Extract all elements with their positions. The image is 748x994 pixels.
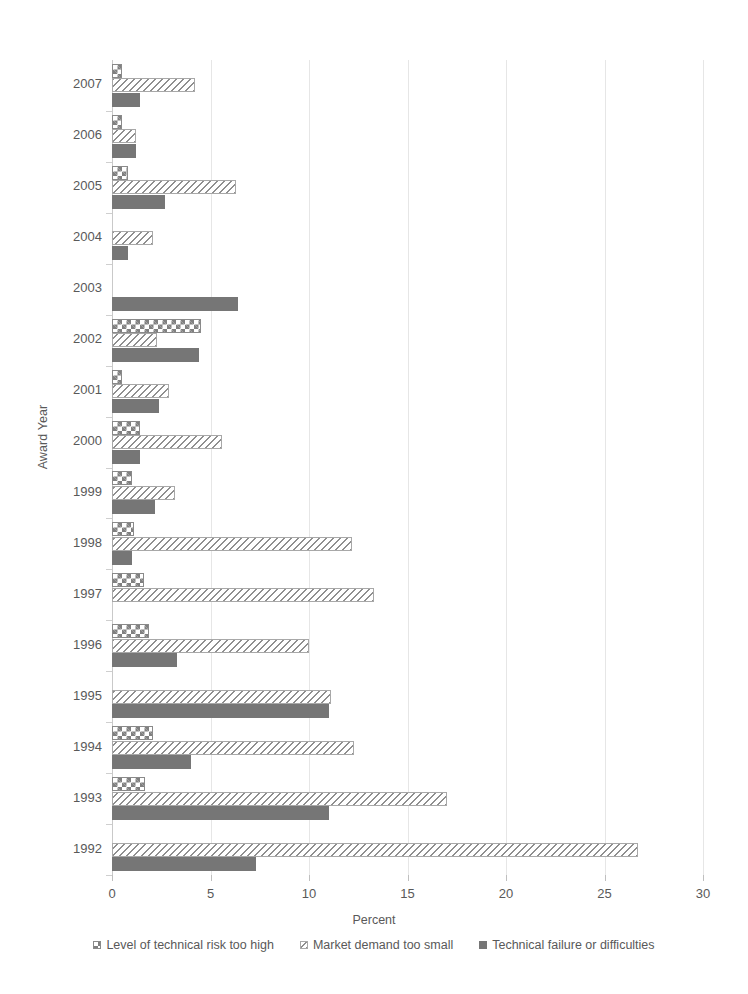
legend-swatch-icon	[479, 941, 487, 949]
x-tick-label: 0	[92, 886, 132, 901]
y-tick-label: 1992	[32, 841, 102, 856]
x-tickmark	[605, 875, 606, 881]
legend-label: Market demand too small	[313, 938, 453, 952]
chart-category-row: 1994	[112, 722, 703, 773]
chart-bar	[112, 93, 140, 107]
chart-bar	[112, 588, 374, 602]
chart-bar	[112, 370, 122, 384]
y-tick-label: 1995	[32, 688, 102, 703]
y-tick-label: 2004	[32, 229, 102, 244]
chart-bar	[112, 777, 145, 791]
chart-category-row: 1997	[112, 569, 703, 620]
chart-bar	[112, 180, 236, 194]
y-tick-label: 2005	[32, 178, 102, 193]
y-tick-label: 1998	[32, 535, 102, 550]
chart-bar	[112, 857, 256, 871]
legend-label: Level of technical risk too high	[106, 938, 273, 952]
y-tick-label: 2001	[32, 382, 102, 397]
chart-category-row: 2003	[112, 264, 703, 315]
chart-bar	[112, 653, 177, 667]
chart-bar	[112, 471, 132, 485]
chart-category-row: 2001	[112, 366, 703, 417]
plot-area: 2007200620052004200320022001200019991998…	[112, 60, 703, 875]
x-tickmark	[506, 875, 507, 881]
chart-bar	[112, 129, 136, 143]
chart-bar	[112, 450, 140, 464]
x-tickmark	[703, 875, 704, 881]
chart-category-row: 1998	[112, 518, 703, 569]
chart-bar	[112, 144, 136, 158]
chart-bar	[112, 624, 149, 638]
x-tickmark	[408, 875, 409, 881]
x-tick-label: 20	[486, 886, 526, 901]
chart-bar	[112, 195, 165, 209]
chart-bar	[112, 792, 447, 806]
legend-swatch-icon	[93, 941, 101, 949]
chart-bar	[112, 486, 175, 500]
y-tick-label: 2002	[32, 331, 102, 346]
chart-bar	[112, 421, 140, 435]
chart-legend: Level of technical risk too highMarket d…	[0, 938, 748, 952]
chart-bar	[112, 64, 122, 78]
chart-category-row: 2005	[112, 162, 703, 213]
y-tick-label: 1994	[32, 739, 102, 754]
x-axis-title: Percent	[0, 913, 748, 927]
x-tick-label: 30	[683, 886, 723, 901]
chart-bar	[112, 551, 132, 565]
chart-bar	[112, 78, 195, 92]
chart-bar	[112, 806, 329, 820]
chart-bar	[112, 690, 331, 704]
chart-category-row: 1995	[112, 671, 703, 722]
y-tick-label: 1999	[32, 484, 102, 499]
chart-category-row: 2004	[112, 213, 703, 264]
y-tick-label: 2000	[32, 433, 102, 448]
chart-bar	[112, 115, 122, 129]
chart-bar	[112, 639, 309, 653]
chart-bar	[112, 435, 222, 449]
legend-item[interactable]: Technical failure or difficulties	[479, 938, 654, 952]
legend-item[interactable]: Market demand too small	[300, 938, 453, 952]
chart-bar	[112, 246, 128, 260]
chart-bar	[112, 843, 638, 857]
x-tick-label: 5	[191, 886, 231, 901]
x-tickmark	[112, 875, 113, 881]
x-tickmark	[309, 875, 310, 881]
legend-swatch-icon	[300, 941, 308, 949]
chart-bar	[112, 755, 191, 769]
chart-category-row: 2002	[112, 315, 703, 366]
chart-bar	[112, 704, 329, 718]
chart-bar	[112, 297, 238, 311]
chart-category-row: 1999	[112, 468, 703, 519]
x-tick-label: 25	[585, 886, 625, 901]
chart-category-row: 1993	[112, 773, 703, 824]
y-tick-label: 2006	[32, 127, 102, 142]
chart-bar	[112, 319, 201, 333]
chart-bar	[112, 500, 155, 514]
gridline	[703, 60, 704, 875]
chart-bar	[112, 231, 153, 245]
chart-category-row: 2007	[112, 60, 703, 111]
chart-bar	[112, 537, 352, 551]
chart-bar	[112, 333, 157, 347]
chart-bar	[112, 573, 144, 587]
chart-category-row: 2000	[112, 417, 703, 468]
chart-bar	[112, 399, 159, 413]
x-tick-label: 10	[289, 886, 329, 901]
horizontal-bar-chart: Award Year 20072006200520042003200220012…	[0, 0, 748, 994]
chart-bar	[112, 166, 128, 180]
y-tick-label: 1996	[32, 637, 102, 652]
x-tickmark	[211, 875, 212, 881]
y-tick-label: 1993	[32, 790, 102, 805]
y-tick-label: 2003	[32, 280, 102, 295]
y-tick-label: 1997	[32, 586, 102, 601]
chart-bar	[112, 522, 134, 536]
chart-bar	[112, 726, 153, 740]
chart-category-row: 1992	[112, 824, 703, 875]
chart-bar	[112, 741, 354, 755]
legend-item[interactable]: Level of technical risk too high	[93, 938, 273, 952]
x-tick-label: 15	[388, 886, 428, 901]
category-tickmark	[106, 875, 112, 876]
chart-bar	[112, 384, 169, 398]
chart-category-row: 1996	[112, 620, 703, 671]
chart-bar	[112, 348, 199, 362]
